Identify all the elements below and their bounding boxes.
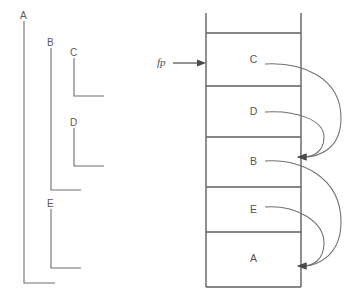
stack-frame-label-E: E bbox=[206, 204, 301, 215]
stack-frame-label-A: A bbox=[206, 253, 301, 264]
stack-frame-label-D: D bbox=[206, 106, 301, 117]
fp-pointer-arrow bbox=[173, 60, 206, 67]
bracket-D bbox=[74, 128, 104, 166]
bracket-label-A: A bbox=[20, 11, 27, 21]
stack-frame-label-C: C bbox=[206, 54, 301, 65]
bracket-A bbox=[24, 21, 55, 283]
bracket-C bbox=[74, 58, 104, 96]
bracket-label-C: C bbox=[70, 48, 77, 58]
diagram-canvas bbox=[0, 0, 360, 302]
link-arrow-D-to-B bbox=[265, 112, 324, 161]
bracket-E bbox=[51, 209, 81, 268]
stack-frame-diagram: A B C D E fp C D B E A bbox=[0, 0, 360, 302]
frame-pointer-label: fp bbox=[157, 57, 166, 68]
bracket-label-B: B bbox=[47, 38, 54, 48]
stack-frame-label-B: B bbox=[206, 156, 301, 167]
bracket-label-E: E bbox=[47, 199, 54, 209]
bracket-label-D: D bbox=[70, 118, 77, 128]
